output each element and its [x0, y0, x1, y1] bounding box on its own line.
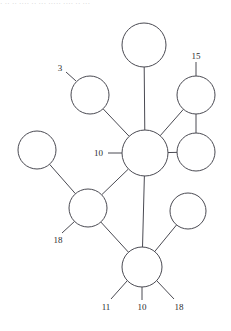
edge-far-left-to-eighteen	[50, 164, 76, 193]
stub-label-three	[66, 72, 76, 81]
node-fifteen[interactable]	[177, 76, 215, 114]
node-three[interactable]	[71, 76, 109, 114]
edge-center-to-bottom	[143, 176, 145, 247]
node-link-graph: 3151018111018	[0, 0, 231, 331]
stub-label-b11	[111, 281, 127, 299]
label-bottom-eighteen: 18	[175, 302, 185, 312]
nodes-layer	[18, 23, 215, 287]
node-lower-right[interactable]	[170, 193, 206, 229]
label-bottom-eleven: 11	[102, 302, 111, 312]
node-right-middle[interactable]	[177, 133, 215, 171]
stub-label-b18	[157, 281, 174, 299]
label-fifteen: 15	[192, 51, 202, 61]
label-center-ten: 10	[94, 148, 104, 158]
edge-center-to-fifteen	[160, 109, 183, 135]
edge-center-to-eighteen	[102, 169, 129, 195]
node-top[interactable]	[122, 23, 166, 67]
diagram-page: · ·· ·· ···· ·· ··· ····· ···· ·· ··· 31…	[0, 0, 231, 331]
node-eighteen[interactable]	[69, 189, 107, 227]
edge-eighteen-to-bottom	[101, 222, 129, 252]
label-eighteen: 18	[54, 235, 64, 245]
node-center-ten[interactable]	[122, 130, 168, 176]
stub-label-eighteen	[62, 221, 75, 233]
label-three: 3	[58, 63, 63, 73]
edge-lower-right-to-bottom	[155, 225, 177, 252]
edge-top-to-center	[144, 67, 145, 130]
edge-three-to-center	[103, 109, 129, 137]
node-far-left[interactable]	[18, 131, 56, 169]
label-bottom-ten: 10	[138, 302, 148, 312]
node-bottom[interactable]	[122, 247, 162, 287]
